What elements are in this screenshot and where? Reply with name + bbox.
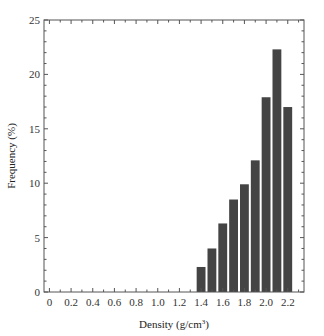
bars-group xyxy=(197,49,293,292)
x-tick-label: 0.4 xyxy=(86,296,100,308)
y-tick-label: 5 xyxy=(35,232,41,244)
x-axis-title: Density (g/cm3) xyxy=(139,318,209,331)
y-tick-label: 10 xyxy=(29,177,41,189)
x-axis-ticks: 00.20.40.60.81.01.21.41.61.82.02.2 xyxy=(47,20,299,308)
histogram-bar xyxy=(240,184,249,292)
x-tick-label: 0.6 xyxy=(108,296,122,308)
x-tick-label: 0 xyxy=(47,296,53,308)
y-tick-label: 15 xyxy=(29,123,41,135)
x-tick-label: 0.2 xyxy=(64,296,78,308)
histogram-bar xyxy=(208,248,217,292)
x-tick-label: 1.2 xyxy=(173,296,187,308)
x-tick-label: 1.8 xyxy=(238,296,252,308)
x-tick-label: 0.8 xyxy=(129,296,143,308)
histogram-bar xyxy=(218,223,227,292)
y-tick-label: 20 xyxy=(29,68,41,80)
x-tick-label: 1.4 xyxy=(194,296,208,308)
histogram-bar xyxy=(251,160,260,292)
x-tick-label: 2.2 xyxy=(281,296,295,308)
x-tick-label: 1.0 xyxy=(151,296,165,308)
histogram-chart: 00.20.40.60.81.01.21.41.61.82.02.2 05101… xyxy=(0,0,324,336)
y-axis-title: Frequency (%) xyxy=(5,123,18,189)
x-tick-label: 1.6 xyxy=(216,296,230,308)
histogram-bar xyxy=(273,49,282,292)
histogram-bar xyxy=(283,107,292,292)
histogram-bar xyxy=(229,200,238,292)
x-tick-label: 2.0 xyxy=(259,296,273,308)
y-tick-label: 25 xyxy=(29,14,41,26)
histogram-bar xyxy=(262,97,271,292)
y-tick-label: 0 xyxy=(35,286,41,298)
